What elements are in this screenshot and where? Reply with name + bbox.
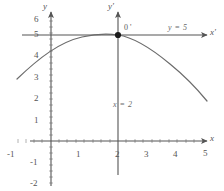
y-prime-axis-label: y' <box>108 2 114 11</box>
y-tick-label-2: 2 <box>34 94 39 103</box>
translated-origin-label: 0 ' <box>124 24 131 32</box>
x-tick-label-2: 2 <box>115 150 120 159</box>
y-tick-label-5: 5 <box>34 30 39 39</box>
x-tick-label-4: 4 <box>173 150 178 159</box>
translated-origin-point <box>115 32 121 38</box>
y-tick-label-6: 6 <box>34 15 39 24</box>
x-tick-label-neg1: -1 <box>7 150 15 159</box>
x-tick-label-3: 3 <box>144 150 149 159</box>
y-axis-label: y <box>43 2 47 11</box>
y-tick-label-1: 1 <box>34 116 39 125</box>
y-tick-label-4: 4 <box>34 51 39 60</box>
annotation-x-equals-2: x = 2 <box>113 101 132 109</box>
annotation-y-equals-5: y = 5 <box>168 24 187 32</box>
y-tick-label-3: 3 <box>34 73 39 82</box>
x-tick-label-1: 1 <box>76 150 81 159</box>
x-tick-label-5: 5 <box>203 149 208 158</box>
graph-figure: 6 5 4 3 2 1 -1 -2 -1 1 2 3 4 5 y x y' x'… <box>0 0 224 191</box>
x-prime-axis-label: x' <box>210 28 216 37</box>
parabola-curve <box>17 34 207 101</box>
y-tick-label-neg2: -2 <box>30 179 38 188</box>
y-tick-label-neg1: -1 <box>30 158 38 167</box>
x-axis-label: x <box>210 134 214 143</box>
